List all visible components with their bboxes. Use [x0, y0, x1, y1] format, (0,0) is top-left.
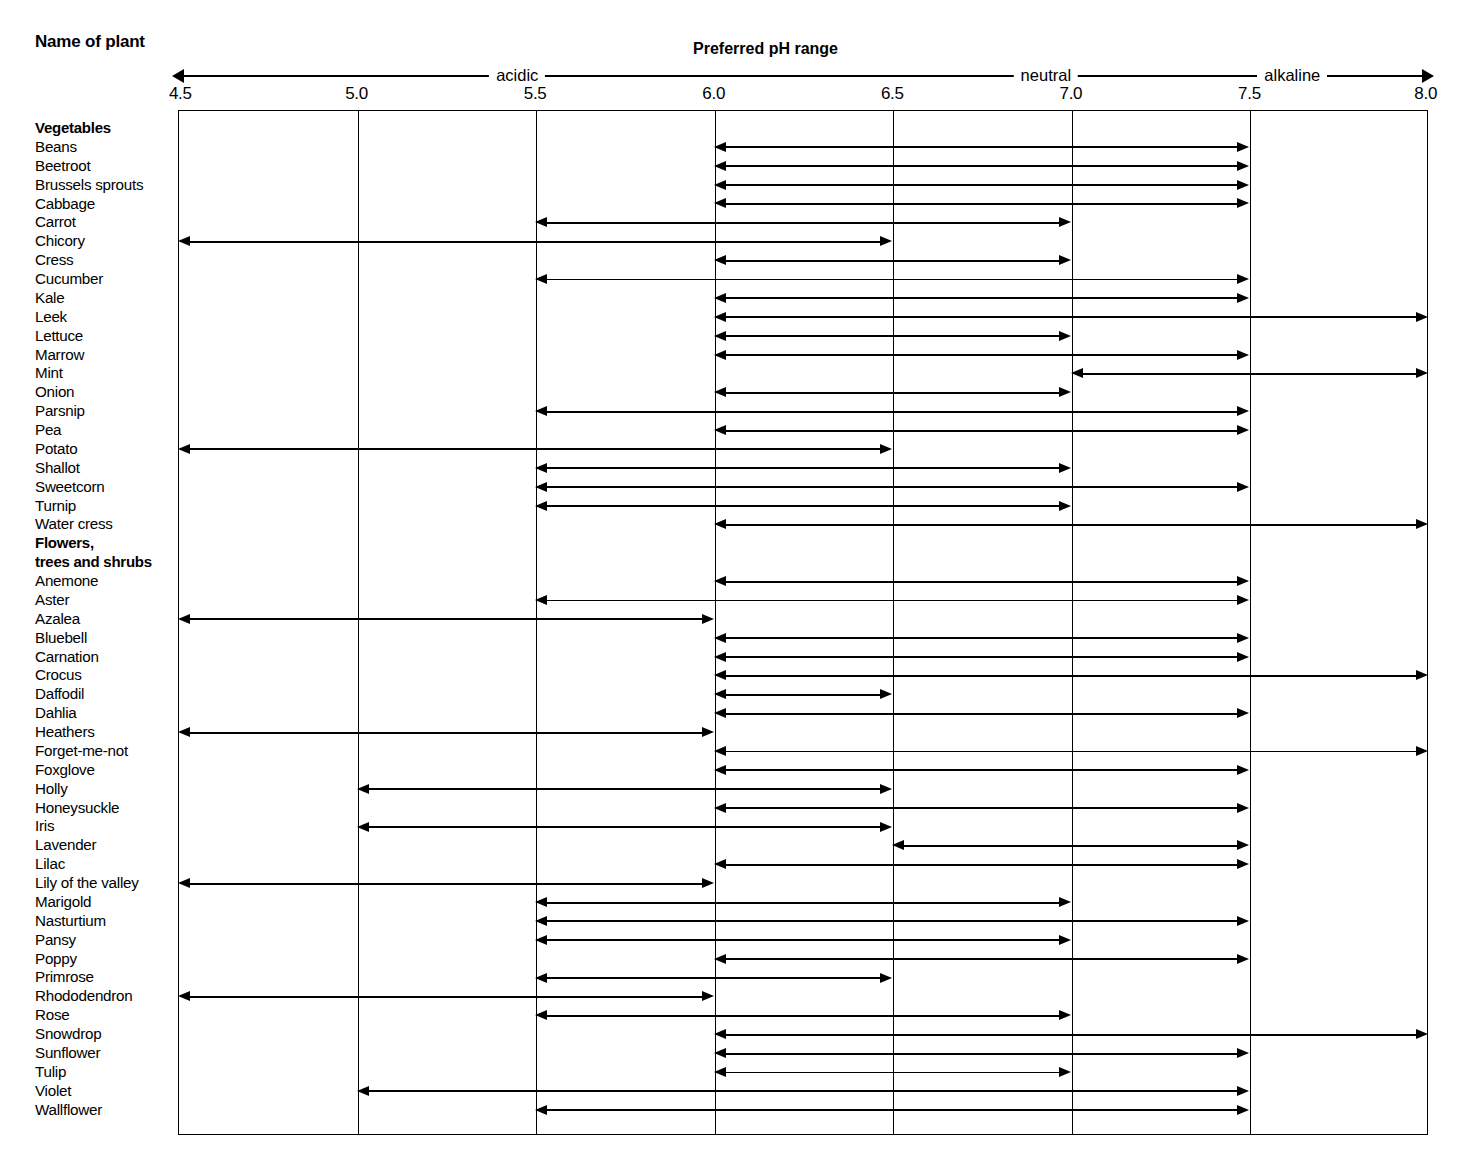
plant-row-primrose[interactable]: Primrose: [35, 968, 178, 987]
plant-row-iris[interactable]: Iris: [35, 817, 178, 836]
arrow-head-right-icon: [1059, 935, 1071, 945]
plant-row-violet[interactable]: Violet: [35, 1082, 178, 1101]
plant-row-aster[interactable]: Aster: [35, 591, 178, 610]
arrow-head-right-icon: [880, 444, 892, 454]
plant-row-snowdrop[interactable]: Snowdrop: [35, 1025, 178, 1044]
arrow-shaft: [183, 618, 709, 620]
range-arrow: [714, 161, 1250, 172]
plant-row-sweetcorn[interactable]: Sweetcorn: [35, 478, 178, 497]
plant-row-leek[interactable]: Leek: [35, 308, 178, 327]
arrow-head-right-icon: [1059, 387, 1071, 397]
arrow-shaft: [540, 222, 1066, 224]
arrow-head-right-icon: [1237, 425, 1249, 435]
arrow-head-right-icon: [1237, 803, 1249, 813]
plant-row-holly[interactable]: Holly: [35, 780, 178, 799]
plant-row-bluebell[interactable]: Bluebell: [35, 629, 178, 648]
range-arrow: [714, 1029, 1428, 1040]
axis-tick-8.0: 8.0: [1414, 84, 1437, 104]
plant-row-lettuce[interactable]: Lettuce: [35, 327, 178, 346]
plant-row-honeysuckle[interactable]: Honeysuckle: [35, 799, 178, 818]
range-arrow: [535, 595, 1249, 606]
plant-row-dahlia[interactable]: Dahlia: [35, 704, 178, 723]
range-arrow: [714, 633, 1250, 644]
range-arrow: [535, 217, 1071, 228]
plant-row-azalea[interactable]: Azalea: [35, 610, 178, 629]
plant-row-rhododendron[interactable]: Rhododendron: [35, 987, 178, 1006]
axis-tick-6.0: 6.0: [702, 84, 725, 104]
plant-row-rose[interactable]: Rose: [35, 1006, 178, 1025]
range-arrow: [535, 274, 1249, 285]
arrow-shaft: [719, 637, 1245, 639]
plant-row-beans[interactable]: Beans: [35, 138, 178, 157]
arrow-shaft: [362, 826, 888, 828]
plant-row-pansy[interactable]: Pansy: [35, 931, 178, 950]
plant-row-potato[interactable]: Potato: [35, 440, 178, 459]
plant-row-tulip[interactable]: Tulip: [35, 1063, 178, 1082]
arrow-head-right-icon: [1237, 180, 1249, 190]
arrow-shaft: [183, 241, 887, 243]
arrow-shaft: [719, 751, 1423, 753]
plant-row-pea[interactable]: Pea: [35, 421, 178, 440]
plant-row-kale[interactable]: Kale: [35, 289, 178, 308]
range-arrow: [714, 180, 1250, 191]
plant-row-carnation[interactable]: Carnation: [35, 648, 178, 667]
arrow-shaft: [183, 883, 709, 885]
range-arrow: [714, 746, 1428, 757]
plant-row-turnip[interactable]: Turnip: [35, 497, 178, 516]
plant-row-parsnip[interactable]: Parsnip: [35, 402, 178, 421]
range-arrow: [535, 897, 1071, 908]
arrow-head-right-icon: [1416, 312, 1428, 322]
range-arrow: [714, 350, 1250, 361]
plant-row-foxglove[interactable]: Foxglove: [35, 761, 178, 780]
plant-row-lavender[interactable]: Lavender: [35, 836, 178, 855]
plant-row-shallot[interactable]: Shallot: [35, 459, 178, 478]
band-label-alkaline: alkaline: [1257, 67, 1327, 84]
plant-row-poppy[interactable]: Poppy: [35, 950, 178, 969]
plant-row-nasturtium[interactable]: Nasturtium: [35, 912, 178, 931]
arrow-shaft: [719, 184, 1245, 186]
arrow-head-right-icon: [1416, 670, 1428, 680]
axis-tick-7.0: 7.0: [1059, 84, 1082, 104]
plant-row-onion[interactable]: Onion: [35, 383, 178, 402]
arrow-shaft: [719, 958, 1245, 960]
plant-row-cabbage[interactable]: Cabbage: [35, 195, 178, 214]
plant-row-marigold[interactable]: Marigold: [35, 893, 178, 912]
plant-row-marrow[interactable]: Marrow: [35, 346, 178, 365]
axis-tick-6.5: 6.5: [881, 84, 904, 104]
plant-row-chicory[interactable]: Chicory: [35, 232, 178, 251]
plant-row-cress[interactable]: Cress: [35, 251, 178, 270]
arrow-shaft: [719, 146, 1245, 148]
plant-row-heathers[interactable]: Heathers: [35, 723, 178, 742]
range-arrow: [714, 387, 1071, 398]
plant-row-sunflower[interactable]: Sunflower: [35, 1044, 178, 1063]
plant-row-brussels-sprouts[interactable]: Brussels sprouts: [35, 176, 178, 195]
arrow-head-right-icon: [1059, 255, 1071, 265]
arrow-head-right-icon: [1237, 274, 1249, 284]
arrow-head-right-icon: [1416, 1029, 1428, 1039]
plant-row-mint[interactable]: Mint: [35, 364, 178, 383]
plant-row-cucumber[interactable]: Cucumber: [35, 270, 178, 289]
group-heading-line1: Flowers,: [35, 534, 178, 553]
group-heading-line2: trees and shrubs: [35, 553, 178, 572]
plant-row-forget-me-not[interactable]: Forget-me-not: [35, 742, 178, 761]
arrow-head-right-icon: [1059, 217, 1071, 227]
axis-tick-4.5: 4.5: [169, 84, 192, 104]
plant-row-lily-of-the-valley[interactable]: Lily of the valley: [35, 874, 178, 893]
plant-row-carrot[interactable]: Carrot: [35, 213, 178, 232]
range-arrow: [714, 425, 1250, 436]
plant-row-wallflower[interactable]: Wallflower: [35, 1101, 178, 1120]
range-arrow: [357, 822, 893, 833]
plant-row-beetroot[interactable]: Beetroot: [35, 157, 178, 176]
arrow-head-right-icon: [880, 784, 892, 794]
arrow-head-right-icon: [1237, 161, 1249, 171]
plant-row-lilac[interactable]: Lilac: [35, 855, 178, 874]
range-arrow: [535, 1105, 1249, 1116]
range-arrow: [178, 614, 714, 625]
plant-row-crocus[interactable]: Crocus: [35, 666, 178, 685]
range-arrow: [357, 1086, 1250, 1097]
ph-range-chart: Name of plant Preferred pH range acidicn…: [0, 0, 1461, 1159]
plant-row-daffodil[interactable]: Daffodil: [35, 685, 178, 704]
plant-row-water-cress[interactable]: Water cress: [35, 515, 178, 534]
plant-row-anemone[interactable]: Anemone: [35, 572, 178, 591]
range-arrow: [714, 689, 893, 700]
